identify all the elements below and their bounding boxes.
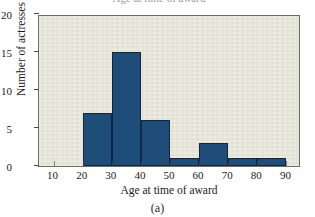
x-tick-label: 90 <box>270 170 300 181</box>
figure-caption: (a) <box>0 201 315 215</box>
x-tick-mark <box>257 161 258 166</box>
x-tick-label: 10 <box>38 170 68 181</box>
x-tick-mark <box>228 161 229 166</box>
y-tick-mark <box>34 89 39 90</box>
x-axis-title: Age at time of award <box>38 184 300 197</box>
histogram-bar <box>170 158 199 166</box>
y-tick-label: 5 <box>0 124 12 135</box>
bars-layer <box>39 16 299 166</box>
histogram-bar <box>83 113 112 166</box>
cropped-figure-title: Age at time of award <box>30 0 288 5</box>
plot-area <box>38 15 300 167</box>
y-tick-mark <box>34 13 39 14</box>
x-tick-label: 20 <box>67 170 97 181</box>
y-tick-label: 0 <box>0 162 12 173</box>
y-tick-mark <box>34 165 39 166</box>
y-axis-title: Number of actresses <box>14 0 28 114</box>
x-tick-mark <box>170 161 171 166</box>
x-tick-label: 80 <box>241 170 271 181</box>
y-tick-mark <box>34 51 39 52</box>
x-tick-label: 40 <box>125 170 155 181</box>
y-tick-label: 10 <box>0 86 12 97</box>
histogram-bar <box>112 52 141 166</box>
histogram-figure: Age at time of award Number of actresses… <box>0 0 315 217</box>
x-tick-mark <box>83 161 84 166</box>
histogram-bar <box>141 120 170 166</box>
x-tick-label: 70 <box>212 170 242 181</box>
x-tick-mark <box>141 161 142 166</box>
x-tick-mark <box>112 161 113 166</box>
cropped-title-text: Age at time of award <box>113 0 206 4</box>
histogram-bar <box>228 158 257 166</box>
x-tick-mark <box>54 161 55 166</box>
y-tick-label: 20 <box>0 10 12 21</box>
x-tick-mark <box>199 161 200 166</box>
x-tick-label: 30 <box>96 170 126 181</box>
histogram-bar <box>199 143 228 166</box>
x-tick-label: 60 <box>183 170 213 181</box>
histogram-bar <box>257 158 286 166</box>
y-tick-label: 15 <box>0 48 12 59</box>
x-tick-label: 50 <box>154 170 184 181</box>
x-tick-mark <box>286 161 287 166</box>
y-tick-mark <box>34 127 39 128</box>
